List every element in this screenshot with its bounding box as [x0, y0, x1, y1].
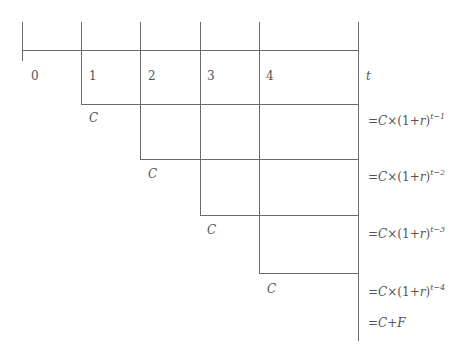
- formula-exponent: t−3: [430, 225, 445, 234]
- formula-base: (1+: [397, 114, 419, 128]
- formula-exponent: t−4: [430, 283, 445, 292]
- period-label-0: 0: [31, 69, 39, 83]
- future-value-formula-1: =C×(1+r)t−1: [368, 114, 445, 128]
- equals-sign: =: [368, 285, 378, 299]
- timeline-axis: [22, 50, 359, 51]
- period-label-t: t: [366, 69, 371, 83]
- equals-sign: =: [368, 316, 378, 330]
- formula-base: (1+: [397, 285, 419, 299]
- formula-C: C: [378, 316, 387, 330]
- times-sign: ×: [387, 170, 397, 184]
- period-t-line: [358, 22, 359, 341]
- times-sign: ×: [387, 285, 397, 299]
- period-label-3: 3: [207, 69, 215, 83]
- formula-face-value: F: [397, 316, 405, 330]
- formula-C: C: [378, 170, 387, 184]
- formula-C: C: [378, 114, 387, 128]
- cash-flow-label-2: C: [148, 167, 157, 181]
- compound-line-1: [81, 104, 359, 105]
- formula-C: C: [378, 285, 387, 299]
- period-1-line: [81, 22, 82, 105]
- compound-line-3: [200, 215, 359, 216]
- future-value-formula-4: =C×(1+r)t−4: [368, 285, 445, 299]
- cash-flow-label-4: C: [267, 282, 276, 296]
- compound-line-4: [259, 273, 359, 274]
- future-value-formula-2: =C×(1+r)t−2: [368, 170, 445, 184]
- formula-base: (1+: [397, 170, 419, 184]
- formula-base: (1+: [397, 227, 419, 241]
- equals-sign: =: [368, 227, 378, 241]
- formula-C: C: [378, 227, 387, 241]
- cash-flow-label-1: C: [89, 111, 98, 125]
- cash-flow-timeline-diagram: 0 1 2 3 4 t C C C C =C×(1+r)t−1 =C×(1+r)…: [0, 0, 469, 358]
- period-0-tick: [22, 22, 23, 61]
- times-sign: ×: [387, 114, 397, 128]
- period-4-line: [259, 22, 260, 274]
- period-label-2: 2: [148, 69, 156, 83]
- equals-sign: =: [368, 170, 378, 184]
- compound-line-2: [140, 159, 359, 160]
- formula-exponent: t−1: [430, 112, 445, 121]
- period-3-line: [200, 22, 201, 216]
- period-2-line: [140, 22, 141, 160]
- equals-sign: =: [368, 114, 378, 128]
- future-value-formula-3: =C×(1+r)t−3: [368, 227, 445, 241]
- times-sign: ×: [387, 227, 397, 241]
- final-payment-formula: =C+F: [368, 316, 406, 330]
- plus-sign: +: [387, 316, 397, 330]
- formula-exponent: t−2: [430, 168, 445, 177]
- period-label-4: 4: [266, 69, 274, 83]
- cash-flow-label-3: C: [207, 223, 216, 237]
- period-label-1: 1: [89, 69, 97, 83]
